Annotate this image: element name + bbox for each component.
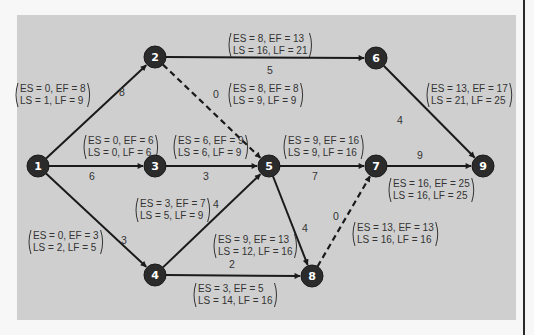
node-6: 6 (365, 47, 387, 69)
edge-duration: 7 (312, 170, 318, 182)
es-ef-text: ES = 0, EF = 8 (20, 83, 86, 94)
node-number: 9 (479, 160, 487, 173)
edge-schedule-label: ES = 6, EF = 9LS = 6, LF = 9 (174, 135, 248, 159)
node-number: 1 (34, 160, 42, 173)
ls-lf-text: LS = 9, LF = 16 (288, 147, 357, 158)
ls-lf-text: LS = 16, LF = 21 (233, 45, 308, 56)
edge-duration: 8 (119, 86, 125, 98)
edge-duration: 4 (302, 222, 308, 234)
ls-lf-text: LS = 1, LF = 9 (20, 95, 84, 106)
edge-duration: 6 (89, 170, 95, 182)
edge-duration: 0 (213, 88, 219, 100)
node-number: 6 (372, 52, 380, 65)
node-number: 5 (265, 160, 273, 173)
edge-2-6 (166, 57, 364, 58)
es-ef-text: ES = 9, EF = 16 (288, 135, 360, 146)
edge-schedule-label: ES = 0, EF = 3LS = 2, LF = 5 (29, 230, 103, 254)
project-network-diagram: 8ES = 0, EF = 8LS = 1, LF = 96ES = 0, EF… (0, 0, 534, 335)
edge-duration: 9 (417, 149, 423, 161)
es-ef-text: ES = 8, EF = 8 (233, 83, 299, 94)
node-number: 4 (151, 269, 159, 282)
es-ef-text: ES = 13, EF = 13 (357, 222, 434, 233)
node-9: 9 (472, 155, 494, 177)
es-ef-text: ES = 6, EF = 9 (178, 135, 244, 146)
es-ef-text: ES = 13, EF = 17 (431, 83, 508, 94)
node-3: 3 (144, 155, 166, 177)
ls-lf-text: LS = 21, LF = 25 (431, 95, 506, 106)
node-7: 7 (365, 155, 387, 177)
edge-duration: 4 (397, 114, 403, 126)
ls-lf-text: LS = 0, LF = 6 (88, 147, 152, 158)
node-number: 8 (308, 270, 316, 283)
edge-schedule-label: ES = 16, EF = 25LS = 16, LF = 25 (389, 178, 474, 202)
node-2: 2 (144, 46, 166, 68)
edge-schedule-label: ES = 13, EF = 13LS = 16, LF = 16 (353, 222, 438, 246)
node-1: 1 (27, 155, 49, 177)
ls-lf-text: LS = 6, LF = 9 (178, 147, 242, 158)
edge-schedule-label: ES = 9, EF = 16LS = 9, LF = 16 (284, 135, 363, 159)
es-ef-text: ES = 3, EF = 5 (198, 283, 264, 294)
es-ef-text: ES = 3, EF = 7 (140, 198, 206, 209)
edge-schedule-label: ES = 13, EF = 17LS = 21, LF = 25 (427, 83, 512, 107)
es-ef-text: ES = 0, EF = 3 (33, 230, 99, 241)
ls-lf-text: LS = 16, LF = 25 (393, 190, 468, 201)
es-ef-text: ES = 16, EF = 25 (393, 178, 470, 189)
edge-duration: 3 (203, 170, 209, 182)
es-ef-text: ES = 9, EF = 13 (218, 234, 290, 245)
ls-lf-text: LS = 12, LF = 16 (218, 246, 293, 257)
node-number: 2 (151, 51, 159, 64)
edge-schedule-label: ES = 8, EF = 13LS = 16, LF = 21 (229, 33, 312, 57)
node-number: 7 (372, 160, 380, 173)
node-8: 8 (301, 265, 323, 287)
es-ef-text: ES = 0, EF = 6 (88, 135, 154, 146)
edge-4-8 (166, 275, 300, 276)
edge-schedule-label: ES = 8, EF = 8LS = 9, LF = 9 (229, 83, 303, 107)
node-5: 5 (258, 155, 280, 177)
edge-schedule-label: ES = 3, EF = 7LS = 5, LF = 9 (136, 198, 210, 222)
node-number: 3 (151, 160, 159, 173)
edge-duration: 5 (267, 64, 273, 76)
es-ef-text: ES = 8, EF = 13 (233, 33, 305, 44)
edge-schedule-label: ES = 9, EF = 13LS = 12, LF = 16 (214, 234, 297, 258)
ls-lf-text: LS = 16, LF = 16 (357, 234, 432, 245)
ls-lf-text: LS = 2, LF = 5 (33, 242, 97, 253)
ls-lf-text: LS = 9, LF = 9 (233, 95, 297, 106)
edge-schedule-label: ES = 0, EF = 6LS = 0, LF = 6 (84, 135, 158, 159)
ls-lf-text: LS = 5, LF = 9 (140, 210, 204, 221)
node-4: 4 (144, 264, 166, 286)
edge-schedule-label: ES = 0, EF = 8LS = 1, LF = 9 (16, 83, 90, 107)
edge-duration: 3 (121, 234, 127, 246)
edge-duration: 2 (229, 258, 235, 270)
edge-duration: 0 (333, 210, 339, 222)
edge-duration: 4 (213, 198, 219, 210)
ls-lf-text: LS = 14, LF = 16 (198, 295, 273, 306)
